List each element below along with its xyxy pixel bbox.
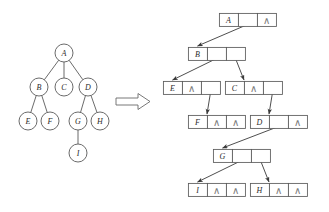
linked-node-h: H∧∧ — [250, 183, 307, 196]
nil-pointer-icon: ∧ — [188, 83, 195, 94]
nil-pointer-icon: ∧ — [294, 185, 301, 196]
tree-node-g: G — [69, 112, 87, 130]
nil-pointer-icon: ∧ — [213, 185, 220, 196]
linked-node-group: A∧BE∧C∧F∧∧D∧GI∧∧H∧∧ — [163, 13, 307, 196]
linked-node-label: F — [194, 118, 200, 127]
tree-node-e: E — [19, 112, 37, 130]
linked-node-g: G — [213, 149, 270, 162]
tree-edge-b-e — [31, 96, 36, 113]
tree-node-f: F — [41, 112, 59, 130]
tree-node-label: E — [25, 117, 31, 126]
tree-edge-group — [31, 60, 97, 144]
transform-arrow-icon — [116, 94, 150, 110]
linked-node-label: E — [169, 84, 175, 93]
linked-node-label: D — [256, 118, 263, 127]
tree-node-label: F — [47, 117, 53, 126]
tree-node-h: H — [91, 112, 109, 130]
pointer-g-to-h — [261, 161, 270, 183]
tree-edge-d-g — [81, 96, 86, 113]
tree-node-c: C — [55, 78, 73, 96]
figure-canvas: ABCDEFGHI A∧BE∧C∧F∧∧D∧GI∧∧H∧∧ — [0, 0, 329, 212]
tree-edge-a-d — [69, 60, 83, 79]
linked-node-d: D∧ — [250, 115, 307, 128]
linked-node-label: I — [195, 186, 199, 195]
linked-node-a: A∧ — [219, 13, 276, 26]
pointer-e-to-f — [207, 93, 211, 115]
pointer-d-to-g — [223, 127, 279, 149]
tree-edge-a-b — [44, 60, 58, 80]
tree-node-d: D — [79, 78, 97, 96]
nil-pointer-icon: ∧ — [275, 185, 282, 196]
linked-node-label: G — [220, 152, 226, 161]
linked-cell-pointer — [201, 81, 220, 94]
nil-pointer-icon: ∧ — [213, 117, 220, 128]
linked-cell-pointer — [269, 115, 288, 128]
linked-cell-pointer — [251, 149, 270, 162]
linked-node-e: E∧ — [163, 81, 220, 94]
linked-node-i: I∧∧ — [188, 183, 245, 196]
linked-cell-pointer — [226, 47, 245, 60]
linked-cell-pointer — [232, 149, 251, 162]
tree-edge-d-h — [91, 95, 97, 112]
tree-node-a: A — [55, 44, 73, 62]
pointer-b-to-c — [236, 59, 245, 81]
tree-node-label: I — [76, 149, 80, 158]
linked-node-b: B — [188, 47, 245, 60]
nil-pointer-icon: ∧ — [294, 117, 301, 128]
pointer-g-to-i — [198, 161, 242, 183]
nil-pointer-icon: ∧ — [232, 185, 239, 196]
tree-node-label: B — [37, 83, 42, 92]
tree-node-b: B — [30, 78, 48, 96]
tree-node-i: I — [69, 144, 87, 162]
pointer-a-to-b — [198, 25, 248, 47]
tree-node-label: A — [61, 49, 67, 58]
pointer-b-to-e — [173, 59, 217, 81]
linked-node-c: C∧ — [225, 81, 282, 94]
linked-node-label: C — [232, 84, 238, 93]
diagram-svg: ABCDEFGHI A∧BE∧C∧F∧∧D∧GI∧∧H∧∧ — [0, 0, 329, 212]
linked-node-label: B — [195, 50, 200, 59]
nil-pointer-icon: ∧ — [263, 15, 270, 26]
tree-edge-b-f — [42, 96, 47, 113]
nil-pointer-icon: ∧ — [250, 83, 257, 94]
linked-cell-pointer — [207, 47, 226, 60]
tree-node-group: ABCDEFGHI — [19, 44, 109, 162]
tree-node-label: C — [61, 83, 67, 92]
linked-node-f: F∧∧ — [188, 115, 245, 128]
nil-pointer-icon: ∧ — [232, 117, 239, 128]
tree-node-label: G — [75, 117, 81, 126]
pointer-c-to-d — [269, 93, 273, 115]
linked-cell-pointer — [238, 13, 257, 26]
linked-node-label: A — [225, 16, 231, 25]
linked-cell-pointer — [263, 81, 282, 94]
tree-node-label: D — [84, 83, 91, 92]
